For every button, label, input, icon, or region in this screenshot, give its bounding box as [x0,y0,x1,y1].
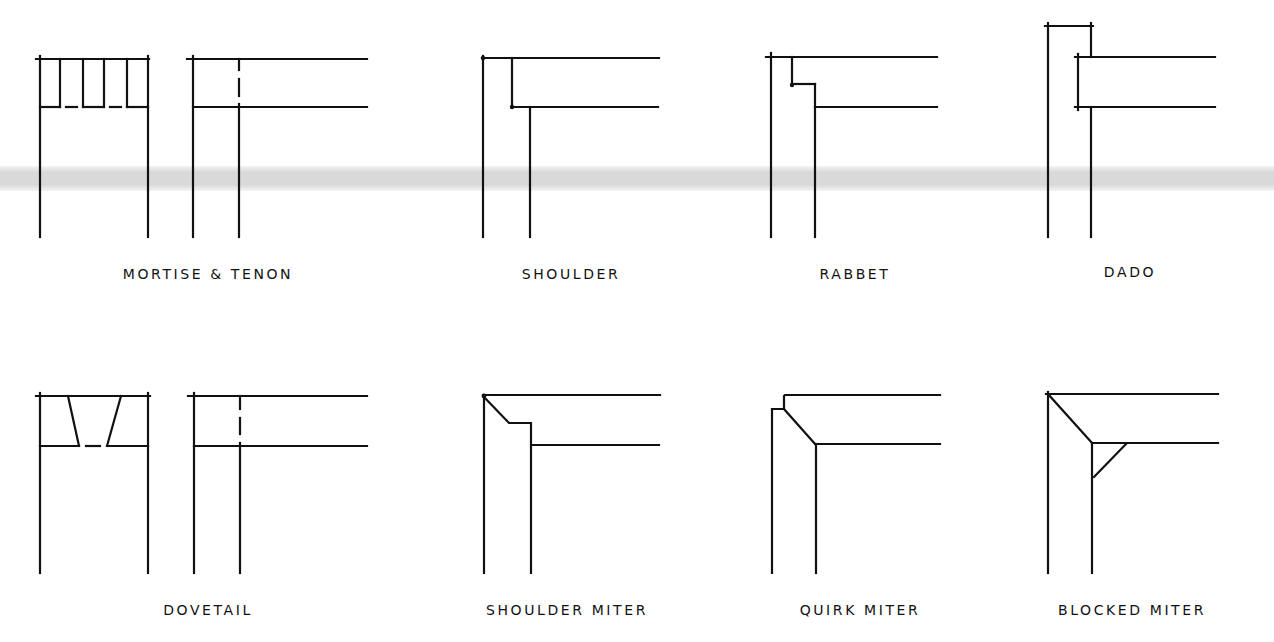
label-shoulder: SHOULDER [522,266,621,282]
shoulder-miter-drawing [482,394,660,573]
joint-drawings [0,0,1274,642]
joinery-diagram-sheet: MORTISE & TENON SHOULDER RABBET DADO DOV… [0,0,1274,642]
dado-drawing [1045,23,1215,237]
label-blocked-miter: BLOCKED MITER [1058,602,1206,618]
mortise-drawing [36,56,149,237]
blocked-miter-drawing [1046,392,1218,573]
shoulder-drawing [481,56,659,237]
dovetail-drawing [36,393,150,573]
label-mortise-tenon: MORTISE & TENON [123,266,293,282]
label-quirk-miter: QUIRK MITER [800,602,921,618]
rabbet-drawing [766,53,937,237]
tenon-drawing [187,56,367,237]
label-shoulder-miter: SHOULDER MITER [486,602,648,618]
label-rabbet: RABBET [820,266,891,282]
label-dado: DADO [1104,264,1156,280]
dovetail-tail-drawing [188,393,367,573]
label-dovetail: DOVETAIL [163,602,253,618]
quirk-miter-drawing [772,395,940,573]
